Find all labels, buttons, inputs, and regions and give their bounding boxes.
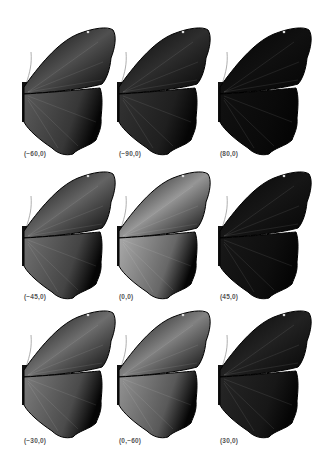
angle-label: (45,0) [220, 293, 238, 300]
angle-label: (−45,0) [24, 293, 46, 300]
butterfly-panel: (−45,0) [18, 166, 118, 311]
angle-label: (−90,0) [119, 150, 141, 157]
angle-label: (0,−60) [119, 437, 141, 444]
butterfly-panel: (45,0) [214, 166, 314, 311]
butterfly-wing-image [214, 166, 314, 301]
angle-label: (−30,0) [24, 437, 46, 444]
butterfly-panel: (−30,0) [18, 305, 118, 450]
angle-label: (80,0) [220, 150, 238, 157]
angle-label: (−60,0) [24, 150, 46, 157]
butterfly-wing-image [113, 166, 213, 301]
butterfly-panel: (80,0) [214, 22, 314, 167]
butterfly-panel: (−90,0) [113, 22, 213, 167]
butterfly-panel: (0,−60) [113, 305, 213, 450]
angle-label: (30,0) [220, 437, 238, 444]
butterfly-wing-image [113, 22, 213, 157]
angle-label: (0,0) [119, 293, 133, 300]
butterfly-wing-image [18, 305, 118, 440]
butterfly-panel: (0,0) [113, 166, 213, 311]
butterfly-wing-image [113, 305, 213, 440]
butterfly-wing-image [18, 166, 118, 301]
butterfly-panel: (30,0) [214, 305, 314, 450]
butterfly-panel: (−60,0) [18, 22, 118, 167]
butterfly-wing-image [214, 305, 314, 440]
butterfly-wing-image [18, 22, 118, 157]
butterfly-wing-image [214, 22, 314, 157]
